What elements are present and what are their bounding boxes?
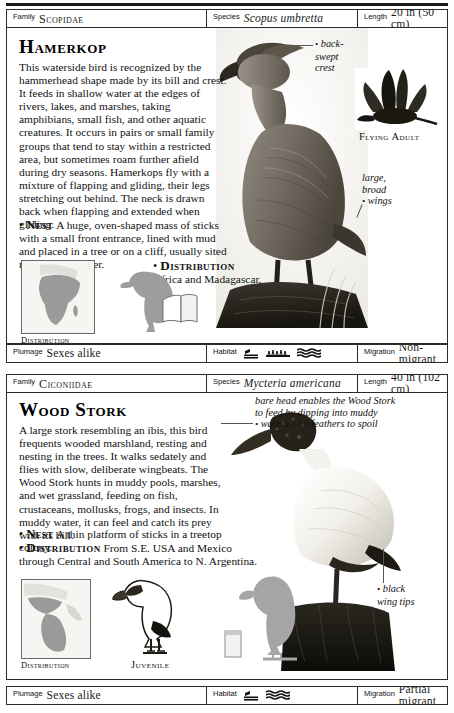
entry2-distribution-map: [21, 579, 91, 659]
entry1-habitat-cell: Habitat: [207, 345, 358, 362]
entry2-distribution-block: • Distribution From S.E. USA and Mexico …: [19, 541, 259, 568]
entry2-panel: Wood Stork A large stork resembling an i…: [6, 393, 448, 680]
entry2-migration-cell: Migration Partial migrant: [358, 687, 447, 704]
reeds-icon: [244, 687, 259, 704]
field-guide-page: Family Scopidae Species Scopus umbretta …: [0, 0, 454, 713]
annotation-line-3: wings: [368, 195, 392, 206]
entry2-length-cell: Length 40 in (102 cm): [358, 375, 447, 392]
entry2-family-cell: Family Ciconiidae: [7, 375, 207, 392]
crest-leader-line: [283, 45, 313, 46]
plumage-value: Sexes alike: [47, 690, 101, 702]
entry2-map-caption: Distribution: [21, 660, 70, 670]
entry2-body-text: A large stork resembling an ibis, this b…: [19, 424, 221, 542]
entry1-nest-label: Nest: [26, 218, 53, 232]
entry2-habitat-cell: Habitat: [207, 687, 358, 704]
migration-value: Partial migrant: [399, 687, 447, 704]
annotation-black-wing-tips: • black wing tips: [377, 583, 447, 607]
habitat-label: Habitat: [213, 690, 237, 698]
water-icon: [266, 687, 290, 704]
entry1-plumage-cell: Plumage Sexes alike: [7, 345, 207, 362]
annotation-line-1: bare head enables the Wood Stork: [255, 395, 395, 406]
habitat-icon-group: [244, 345, 321, 362]
entry1-panel: Hamerkop This waterside bird is recogniz…: [6, 28, 448, 344]
entry2-figure-caption: Juvenile: [131, 659, 169, 670]
annotation-line-2: to feed by dipping into muddy: [255, 407, 378, 418]
entry2-size-comparison: [219, 573, 315, 661]
wing-tips-leader-line: [383, 549, 384, 583]
entry2-distribution-label: Distribution: [26, 540, 100, 555]
length-label: Length: [364, 378, 387, 386]
annotation-line-1: large,: [362, 172, 386, 183]
annotation-line-3: waters – no feathers to spoil: [261, 418, 378, 429]
entry1-length-cell: Length 20 in (50 cm): [358, 10, 447, 27]
length-value: 20 in (50 cm): [391, 10, 447, 27]
migration-value: Non-migrant: [399, 345, 447, 362]
species-label: Species: [213, 378, 240, 386]
migration-label: Migration: [364, 348, 395, 356]
wood-stork-juvenile-illustration: [111, 575, 195, 659]
species-label: Species: [213, 13, 240, 21]
entry1-figure-caption: Flying Adult: [359, 131, 420, 142]
plumage-label: Plumage: [13, 690, 43, 698]
annotation-line-1: back-: [321, 38, 344, 49]
entry1-distribution-map: [21, 260, 95, 334]
entry2-nest-label: Nest: [26, 527, 53, 541]
plumage-value: Sexes alike: [47, 348, 101, 360]
entry1-title: Hamerkop: [19, 37, 106, 56]
reeds-icon: [244, 345, 259, 362]
annotation-line-3: crest: [315, 62, 335, 73]
family-label: Family: [13, 13, 35, 21]
plumage-label: Plumage: [13, 348, 43, 356]
entry1-family-cell: Family Scopidae: [7, 10, 207, 27]
entry2-header-bar: Family Ciconiidae Species Mycteria ameri…: [6, 374, 448, 393]
entry2-footer-bar: Plumage Sexes alike Habitat Migration: [6, 686, 448, 705]
water-icon: [297, 345, 321, 362]
entry1-footer-bar: Plumage Sexes alike Habitat: [6, 344, 448, 363]
family-value: Scopidae: [39, 13, 84, 25]
annotation-line-2: wing tips: [377, 596, 414, 607]
annotation-back-swept-crest: • back- swept crest: [315, 38, 359, 74]
annotation-large-broad-wings: large, broad • wings: [362, 172, 422, 208]
entry2-plumage-cell: Plumage Sexes alike: [7, 687, 207, 704]
migration-label: Migration: [364, 690, 395, 698]
annotation-line-2: broad: [362, 184, 386, 195]
entry1-species-cell: Species Scopus umbretta: [207, 10, 358, 27]
annotation-bullet-icon: •: [377, 584, 380, 594]
entry2-title: Wood Stork: [19, 400, 127, 419]
annotation-bullet-icon: •: [315, 39, 318, 49]
annotation-bullet-icon: •: [255, 419, 258, 429]
entry2-species-cell: Species Mycteria americana: [207, 375, 358, 392]
bare-head-leader-line: [221, 423, 253, 424]
annotation-bare-head-note: bare head enables the Wood Stork to feed…: [255, 395, 448, 431]
length-value: 40 in (102 cm): [391, 375, 447, 392]
length-label: Length: [364, 13, 387, 21]
page-top-rule: [6, 3, 448, 6]
family-value: Ciconiidae: [39, 378, 92, 390]
habitat-label: Habitat: [213, 348, 237, 356]
entry1-size-comparison: [119, 262, 203, 338]
habitat-icon-group: [244, 687, 290, 704]
entry1-migration-cell: Migration Non-migrant: [358, 345, 447, 362]
entry1-header-bar: Family Scopidae Species Scopus umbretta …: [6, 9, 448, 28]
species-value: Scopus umbretta: [244, 13, 324, 25]
entry1-map-caption: Distribution: [21, 335, 70, 344]
entry1-body-text: This waterside bird is recognized by the…: [19, 61, 227, 231]
family-label: Family: [13, 378, 35, 386]
annotation-line-2: swept: [315, 51, 338, 62]
annotation-line-1: black: [383, 583, 405, 594]
shore-icon: [266, 345, 290, 362]
hamerkop-flying-adult-photo: [355, 68, 441, 130]
species-value: Mycteria americana: [244, 378, 341, 390]
